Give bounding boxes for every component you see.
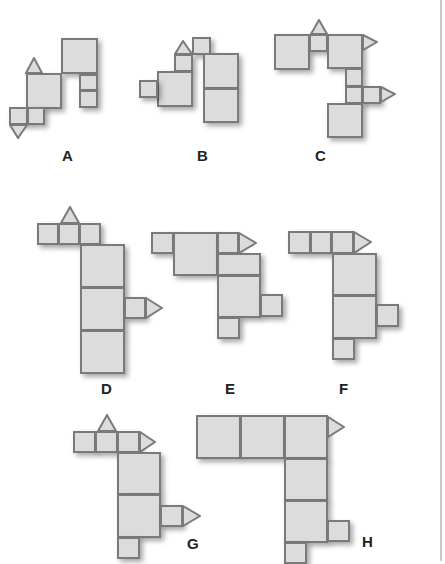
face <box>284 500 328 543</box>
triangle-right-icon <box>327 416 345 438</box>
face <box>284 542 307 564</box>
face <box>284 458 328 501</box>
face <box>284 415 328 459</box>
face <box>240 415 285 459</box>
face <box>196 415 241 459</box>
figure-label: H <box>362 533 373 550</box>
face <box>327 520 350 542</box>
